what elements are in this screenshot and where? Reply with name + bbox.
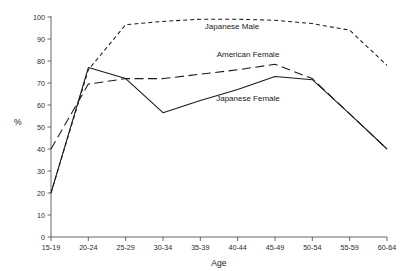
line-chart: 0102030405060708090100 15-1920-2425-2930… [0,0,405,271]
y-axis: 0102030405060708090100 [33,13,51,242]
y-tick-label: 50 [37,123,45,132]
x-tick-label: 30-34 [154,243,172,252]
y-tick-label: 20 [37,189,45,198]
y-tick-label: 30 [37,167,45,176]
x-tick-label: 35-39 [191,243,209,252]
series-line [51,68,387,193]
y-tick-label: 60 [37,101,45,110]
x-axis: 15-1920-2425-2930-3435-3940-4445-4950-54… [42,237,396,252]
series-line [51,64,387,149]
x-tick-label: 15-19 [42,243,60,252]
y-tick-label: 100 [33,13,45,22]
x-tick-label: 55-59 [340,243,358,252]
y-tick-label: 0 [41,233,45,242]
series-label-american-female: American Female [217,50,280,59]
series-label-japanese-male: Japanese Male [205,22,260,31]
x-tick-label: 45-49 [266,243,284,252]
y-axis-title: % [14,117,22,127]
y-tick-label: 10 [37,211,45,220]
x-tick-label: 40-44 [228,243,246,252]
series-label-japanese-female: Japanese Female [216,94,280,103]
x-tick-label: 20-24 [79,243,97,252]
x-tick-label: 50-54 [303,243,321,252]
series-line [51,19,387,193]
series-lines [51,19,387,193]
y-tick-label: 80 [37,57,45,66]
x-axis-title: Age [211,258,227,268]
series-annotations: Japanese MaleAmerican FemaleJapanese Fem… [205,22,280,103]
y-tick-label: 90 [37,35,45,44]
y-tick-label: 40 [37,145,45,154]
y-tick-label: 70 [37,79,45,88]
chart-container: 0102030405060708090100 15-1920-2425-2930… [0,0,405,271]
x-tick-label: 25-29 [116,243,134,252]
x-tick-label: 60-64 [378,243,396,252]
